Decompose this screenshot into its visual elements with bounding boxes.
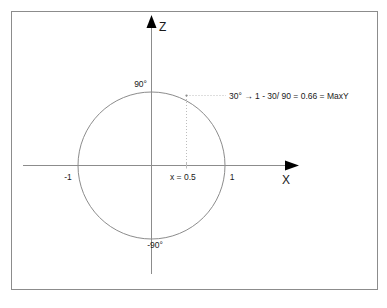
x-tick-label-minus1: -1 bbox=[64, 172, 72, 182]
x-tick-label-1: 1 bbox=[230, 172, 235, 182]
z-tick-label-90: 90° bbox=[134, 79, 147, 89]
x-axis-label: X bbox=[282, 173, 290, 187]
diagram-figure: Z X 90° -90° -1 1 x = 0.5 30° → 1 - 30/ … bbox=[0, 0, 387, 308]
circle-point-marker bbox=[185, 94, 187, 96]
z-axis-label: Z bbox=[159, 20, 166, 34]
x-half-marker-label: x = 0.5 bbox=[170, 172, 196, 182]
z-tick-label-minus90: -90° bbox=[147, 240, 163, 250]
angle-formula-annotation: 30° → 1 - 30/ 90 = 0.66 = MaxY bbox=[229, 91, 349, 101]
figure-border bbox=[12, 12, 378, 290]
diagram-canvas: Z X 90° -90° -1 1 x = 0.5 30° → 1 - 30/ … bbox=[0, 0, 387, 308]
